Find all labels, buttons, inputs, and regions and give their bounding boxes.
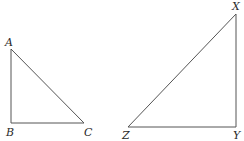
- triangle-abc: [11, 49, 84, 123]
- vertex-label-z: Z: [121, 129, 130, 141]
- diagram-canvas: A B C X Y Z: [0, 0, 244, 141]
- vertex-label-c: C: [84, 126, 93, 139]
- vertex-label-x: X: [231, 0, 241, 13]
- vertex-label-y: Y: [233, 129, 242, 141]
- triangle-xyz: [128, 14, 236, 127]
- triangles-figure: A B C X Y Z: [0, 0, 244, 141]
- vertex-label-a: A: [4, 36, 13, 49]
- vertex-label-b: B: [5, 126, 14, 139]
